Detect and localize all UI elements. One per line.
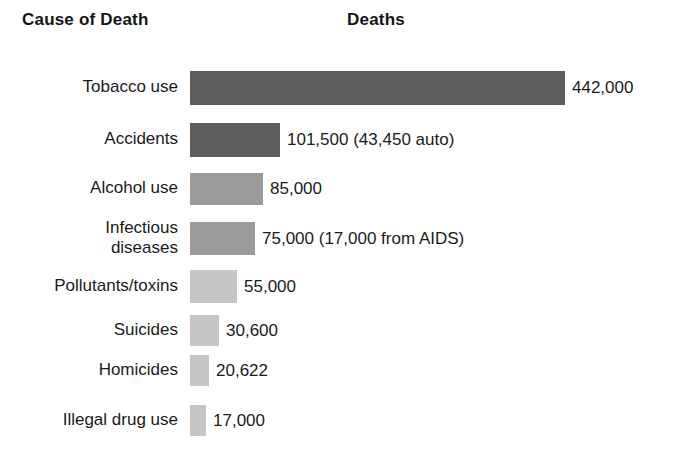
category-label: Illegal drug use xyxy=(0,410,178,430)
bar xyxy=(190,405,206,436)
column-header-deaths: Deaths xyxy=(347,10,405,30)
bar-chart: Cause of Death Deaths Tobacco use442,000… xyxy=(0,0,683,465)
chart-row: Illegal drug use17,000 xyxy=(0,62,683,446)
value-label: 17,000 xyxy=(213,411,265,431)
column-header-cause-of-death: Cause of Death xyxy=(22,10,149,30)
